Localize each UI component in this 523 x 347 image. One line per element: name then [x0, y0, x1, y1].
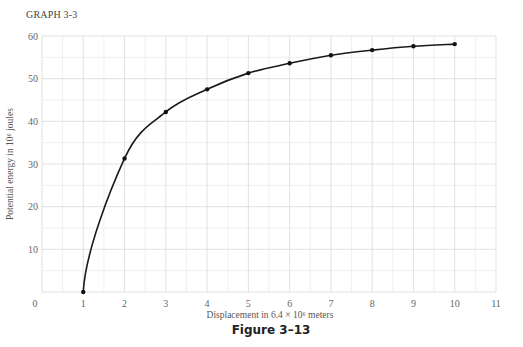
figure-caption: Figure 3–13 [232, 323, 311, 337]
y-tick-label: 30 [28, 159, 38, 170]
x-tick-label: 8 [370, 298, 375, 309]
x-tick-label: 3 [163, 298, 168, 309]
y-axis-ticks: 102030405060 [28, 31, 38, 255]
x-tick-label: 11 [491, 298, 501, 309]
x-axis-label: Displacement in 6.4 × 10⁶ meters [207, 310, 334, 320]
x-axis-ticks: 01234567891011 [33, 298, 501, 309]
x-tick-label: 4 [205, 298, 210, 309]
data-point [81, 290, 85, 294]
x-tick-label: 7 [328, 298, 333, 309]
chart: 102030405060 01234567891011 Potential en… [0, 0, 523, 347]
data-point [370, 48, 374, 52]
x-tick-label: 1 [81, 298, 86, 309]
x-tick-label: 10 [450, 298, 460, 309]
y-axis-label: Potential energy in 10⁶ joules [5, 108, 15, 220]
grid [42, 36, 496, 292]
y-tick-label: 40 [28, 116, 38, 127]
y-tick-label: 50 [28, 73, 38, 84]
x-tick-label: 0 [33, 298, 38, 309]
data-point [164, 110, 168, 114]
x-tick-label: 5 [246, 298, 251, 309]
y-tick-label: 10 [28, 244, 38, 255]
y-tick-label: 60 [28, 31, 38, 42]
data-point [122, 156, 126, 160]
data-point [246, 71, 250, 75]
data-point [329, 53, 333, 57]
data-point [453, 42, 457, 46]
data-point [287, 61, 291, 65]
x-tick-label: 6 [287, 298, 292, 309]
data-point [205, 87, 209, 91]
data-point [411, 44, 415, 48]
x-tick-label: 2 [122, 298, 127, 309]
y-tick-label: 20 [28, 201, 38, 212]
x-tick-label: 9 [411, 298, 416, 309]
